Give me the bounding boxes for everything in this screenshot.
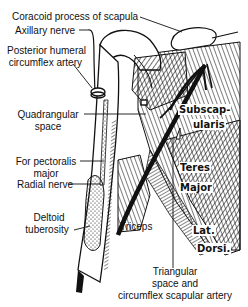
label-posterior-humeral-line1: Posterior humeral: [0, 45, 86, 56]
label-radial-nerve: Radial nerve: [17, 179, 73, 190]
label-triceps: Triceps: [120, 221, 152, 232]
label-triangular-line1: Triangular: [130, 266, 220, 277]
muscle-label-major: Major: [179, 182, 213, 193]
label-deltoid-line2: tuberosity: [20, 224, 74, 235]
muscle-label-subscapularis-2: ularis: [192, 119, 226, 130]
muscle-label-dorsi: Dorsi.: [196, 243, 231, 254]
muscle-label-teres: Teres: [179, 162, 211, 173]
label-axillary-nerve: Axillary nerve: [15, 25, 75, 36]
anatomy-diagram: Coracoid process of scapula Axillary ner…: [0, 0, 248, 307]
label-coracoid-process: Coracoid process of scapula: [12, 11, 138, 22]
label-deltoid-line1: Deltoid: [22, 212, 76, 223]
label-quadrangular-line2: space: [16, 121, 80, 132]
label-triangular-line3: circumflex scapular artery: [100, 290, 248, 301]
muscle-label-lat: Lat.: [192, 225, 216, 236]
label-pectoralis-line2: major: [12, 168, 80, 179]
muscle-label-subscapularis-1: Subscap-: [178, 104, 231, 115]
label-pectoralis-line1: For pectoralis: [12, 156, 80, 167]
label-quadrangular-line1: Quadrangular: [16, 109, 80, 120]
label-posterior-humeral-line2: circumflex artery: [0, 57, 82, 68]
label-triangular-line2: space and: [130, 278, 220, 289]
